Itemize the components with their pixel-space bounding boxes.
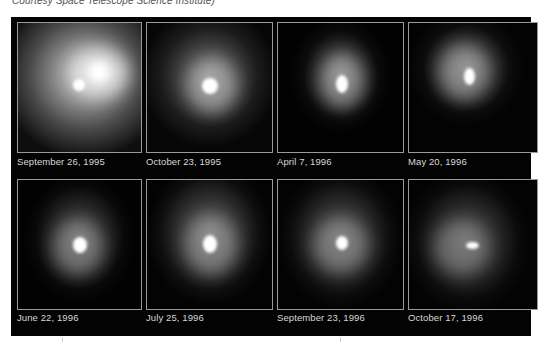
nucleus xyxy=(202,78,218,94)
comet-panel-5 xyxy=(17,179,142,310)
scan-artifact xyxy=(62,337,63,342)
fragment xyxy=(88,61,110,83)
panel-caption: April 7, 1996 xyxy=(277,156,332,167)
nucleus xyxy=(73,79,85,91)
nucleus xyxy=(466,242,479,249)
image-credit: Courtesy Space Telescope Science Institu… xyxy=(12,0,215,6)
scan-artifact xyxy=(340,337,341,342)
comet-panel-1 xyxy=(17,22,142,153)
panel-caption: September 23, 1996 xyxy=(277,312,365,323)
comet-panel-8 xyxy=(408,179,538,310)
panel-caption: May 20, 1996 xyxy=(408,156,467,167)
panel-caption: July 25, 1996 xyxy=(146,312,204,323)
comet-image-plate: September 26, 1995 October 23, 1995 Apri… xyxy=(11,17,531,336)
comet-panel-6 xyxy=(146,179,273,310)
nucleus xyxy=(464,68,475,85)
nucleus xyxy=(73,237,87,253)
nucleus xyxy=(203,235,217,253)
comet-panel-4 xyxy=(408,22,538,153)
panel-caption: October 17, 1996 xyxy=(408,312,483,323)
panel-caption: September 26, 1995 xyxy=(17,156,105,167)
nucleus xyxy=(336,75,348,93)
nucleus xyxy=(336,236,348,250)
comet-panel-3 xyxy=(277,22,404,153)
panel-caption: October 23, 1995 xyxy=(146,156,221,167)
comet-panel-2 xyxy=(146,22,273,153)
comet-panel-7 xyxy=(277,179,404,310)
coma xyxy=(434,220,489,275)
panel-caption: June 22, 1996 xyxy=(17,312,79,323)
